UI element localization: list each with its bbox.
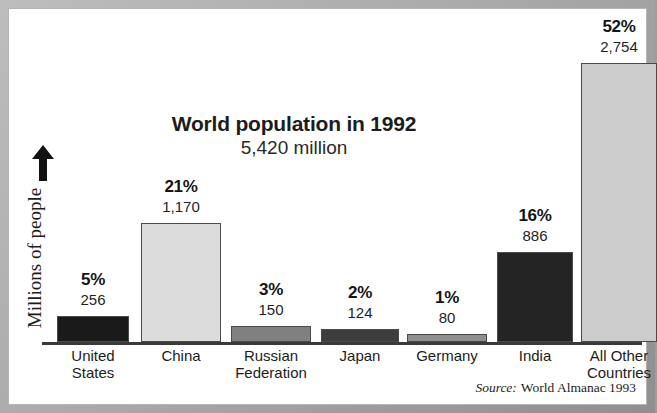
category-line-1: United: [71, 348, 114, 365]
chart-title: World population in 1992: [129, 113, 459, 135]
category-line-1: All Other: [587, 348, 651, 365]
category-line-1: India: [519, 348, 552, 365]
bar-value-label: 256: [80, 291, 105, 308]
bar-category-label: India: [519, 348, 552, 365]
source-note: Source:World Almanac 1993: [475, 380, 636, 396]
category-line-1: Germany: [416, 348, 478, 365]
bar-group-all-other-countries[interactable]: 52% 2,754 All Other Countries: [581, 63, 657, 342]
bar-group-germany[interactable]: 1% 80 Germany: [407, 334, 487, 342]
bar-china[interactable]: [141, 223, 221, 342]
bar-value-label: 2,754: [600, 38, 638, 55]
category-line-1: Russian: [235, 348, 307, 365]
bar-percent-label: 2%: [348, 283, 372, 303]
bar-value-label: 886: [522, 227, 547, 244]
bar-percent-label: 21%: [164, 177, 197, 197]
bar-group-united-states[interactable]: 5% 256 United States: [57, 316, 129, 342]
bar-percent-label: 5%: [81, 270, 105, 290]
category-line-2: Federation: [235, 365, 307, 382]
category-line-1: China: [161, 348, 200, 365]
category-line-1: Japan: [340, 348, 381, 365]
chart-title-block: World population in 1992 5,420 million: [129, 113, 459, 158]
bar-percent-label: 52%: [602, 17, 635, 37]
bar-group-japan[interactable]: 2% 124 Japan: [321, 329, 399, 342]
bar-category-label: Japan: [340, 348, 381, 365]
bar-value-label: 124: [347, 304, 372, 321]
bar-value-label: 80: [439, 309, 456, 326]
bar-percent-label: 3%: [259, 280, 283, 300]
bar-category-label: All Other Countries: [587, 348, 651, 382]
bar-russian-federation[interactable]: [231, 326, 311, 342]
bar-value-label: 1,170: [162, 198, 200, 215]
bar-chart: World population in 1992 5,420 million M…: [9, 9, 648, 406]
bar-group-russian-federation[interactable]: 3% 150 Russian Federation: [231, 326, 311, 342]
bar-united-states[interactable]: [57, 316, 129, 342]
bar-all-other-countries[interactable]: [581, 63, 657, 342]
bar-japan[interactable]: [321, 329, 399, 342]
category-line-2: States: [71, 365, 114, 382]
y-axis-label: Millions of people: [24, 168, 50, 348]
bar-percent-label: 1%: [435, 288, 459, 308]
bar-category-label: United States: [71, 348, 114, 382]
chart-panel: World population in 1992 5,420 million M…: [8, 8, 647, 405]
bar-india[interactable]: [497, 252, 573, 342]
source-text: World Almanac 1993: [521, 380, 636, 395]
bar-category-label: Russian Federation: [235, 348, 307, 382]
bar-category-label: Germany: [416, 348, 478, 365]
x-axis-line: [42, 342, 642, 345]
bar-percent-label: 16%: [518, 206, 551, 226]
chart-subtitle: 5,420 million: [129, 138, 459, 158]
bar-value-label: 150: [258, 301, 283, 318]
bar-group-china[interactable]: 21% 1,170 China: [141, 223, 221, 342]
source-label: Source:: [475, 380, 516, 395]
bar-germany[interactable]: [407, 334, 487, 342]
bar-group-india[interactable]: 16% 886 India: [497, 252, 573, 342]
bar-category-label: China: [161, 348, 200, 365]
